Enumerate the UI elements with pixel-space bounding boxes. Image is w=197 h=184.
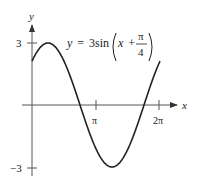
svg-text:4: 4 — [138, 46, 144, 58]
sine-chart: y x π 2π 3 −3 y = 3sin x + π 4 — [0, 0, 197, 184]
x-tick-label-2pi: 2π — [153, 115, 163, 126]
x-axis-label: x — [181, 99, 187, 111]
equation-label: y = 3sin x + π 4 — [66, 30, 152, 61]
y-axis-label: y — [28, 10, 34, 22]
svg-text:π: π — [138, 30, 144, 42]
y-tick-label-3: 3 — [16, 37, 22, 49]
svg-text:x +: x + — [117, 36, 135, 50]
y-tick-label-neg3: −3 — [10, 162, 22, 174]
svg-text:y = 3sin: y = 3sin — [66, 36, 109, 50]
x-tick-label-pi: π — [92, 115, 97, 126]
